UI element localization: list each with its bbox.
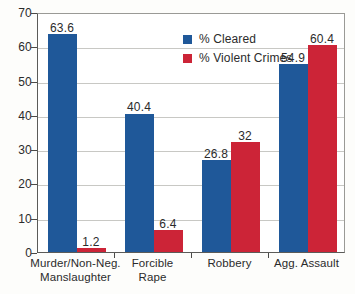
bar-value-label: 60.4 xyxy=(300,32,345,46)
y-tick-label: 40 xyxy=(4,109,32,123)
x-tick-mark xyxy=(268,253,269,258)
bar xyxy=(202,160,231,252)
bar-value-label: 40.4 xyxy=(117,100,162,114)
y-tick-label: 30 xyxy=(4,143,32,157)
plot-area: % Cleared % Violent Crimes 63.61.240.46.… xyxy=(37,13,345,253)
bar xyxy=(308,45,337,252)
y-tick-label: 20 xyxy=(4,177,32,191)
x-axis: Murder/Non-Neg. ManslaughterForcible Rap… xyxy=(37,256,345,292)
bar-value-label: 6.4 xyxy=(146,217,191,231)
y-tick-label: 60 xyxy=(4,40,32,54)
x-tick-mark xyxy=(114,253,115,258)
bar xyxy=(48,34,77,252)
x-category-label: Agg. Assault xyxy=(256,256,355,270)
bar-value-label: 1.2 xyxy=(69,235,114,249)
gridline xyxy=(38,48,344,49)
legend-item-cleared: % Cleared xyxy=(183,31,292,47)
bar xyxy=(154,230,183,252)
bar-value-label: 63.6 xyxy=(40,21,85,35)
y-axis: 010203040506070 xyxy=(0,13,32,253)
y-tick-label: 70 xyxy=(4,6,32,20)
x-tick-mark xyxy=(191,253,192,258)
bar xyxy=(125,114,154,253)
bar-chart: 010203040506070 % Cleared % Violent Crim… xyxy=(0,0,355,294)
legend-label-cleared: % Cleared xyxy=(199,32,256,46)
bar-value-label: 32 xyxy=(223,129,268,143)
legend-swatch-violent-icon xyxy=(183,54,192,63)
y-tick-label: 50 xyxy=(4,75,32,89)
bar xyxy=(279,64,308,252)
bar xyxy=(231,142,260,252)
y-tick-label: 10 xyxy=(4,212,32,226)
y-tick-mark xyxy=(31,253,37,254)
legend-swatch-cleared-icon xyxy=(183,35,192,44)
